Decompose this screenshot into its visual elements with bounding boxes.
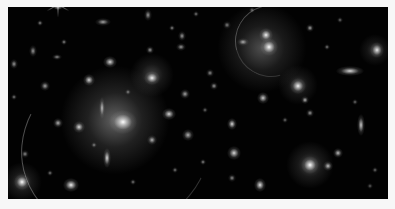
galaxy [29, 45, 37, 57]
galaxy-cluster-image [8, 7, 388, 199]
galaxy [337, 17, 343, 23]
galaxy [370, 42, 384, 58]
galaxy [257, 92, 269, 104]
galaxy [130, 179, 136, 185]
galaxy [144, 71, 160, 85]
galaxy [144, 9, 152, 21]
galaxy [172, 167, 178, 173]
galaxy [200, 159, 206, 165]
galaxy [53, 118, 63, 128]
galaxy [290, 78, 306, 94]
galaxy [259, 28, 273, 42]
galaxy [306, 109, 314, 117]
galaxy [180, 89, 190, 99]
galaxy [227, 118, 237, 130]
galaxy [10, 59, 18, 69]
galaxy [176, 43, 186, 51]
galaxy [103, 148, 111, 168]
galaxy [40, 81, 50, 91]
galaxy [323, 161, 333, 171]
galaxy [301, 96, 309, 104]
galaxy [91, 142, 97, 148]
galaxy [37, 20, 43, 26]
galaxy [109, 110, 137, 134]
galaxy [63, 178, 79, 192]
galaxy [193, 11, 199, 17]
bright-star [52, 7, 64, 10]
galaxy [306, 24, 314, 32]
galaxy [367, 183, 373, 189]
galaxy [147, 135, 157, 145]
galaxy [182, 129, 194, 141]
galaxy [52, 54, 62, 60]
galaxy [210, 82, 218, 90]
galaxy [14, 174, 30, 190]
galaxy [11, 94, 17, 100]
galaxy [336, 66, 364, 76]
galaxy [162, 108, 176, 120]
galaxy [169, 25, 175, 31]
galaxy [254, 178, 266, 192]
galaxy [227, 146, 241, 160]
galaxy [146, 46, 154, 54]
galaxy [95, 18, 111, 26]
galaxy [324, 44, 330, 50]
galaxy [61, 39, 67, 45]
galaxy [125, 89, 131, 95]
galaxy [237, 38, 249, 46]
galaxy [202, 107, 208, 113]
galaxy [99, 97, 105, 119]
galaxy [333, 148, 343, 158]
galaxy [223, 21, 231, 29]
galaxy [21, 150, 29, 158]
galaxy [206, 69, 214, 77]
galaxy [83, 74, 95, 86]
galaxy [73, 121, 85, 133]
galaxy [301, 156, 319, 174]
galaxy [282, 117, 288, 123]
galaxy [249, 7, 255, 13]
galaxy [352, 99, 358, 105]
galaxy [357, 114, 365, 136]
galaxy [178, 31, 186, 41]
galaxy [47, 170, 53, 176]
galaxy [372, 167, 378, 173]
galaxy [103, 56, 117, 68]
galaxy [228, 174, 236, 182]
